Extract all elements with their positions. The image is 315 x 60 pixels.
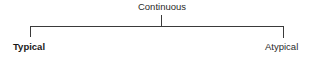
branch-horizontal-line <box>30 26 284 27</box>
right-branch-line <box>283 26 284 38</box>
child-node-typical: Typical <box>13 42 45 52</box>
left-branch-line <box>30 26 31 37</box>
child-node-atypical: Atypical <box>265 42 298 52</box>
root-node-label: Continuous <box>0 2 315 12</box>
